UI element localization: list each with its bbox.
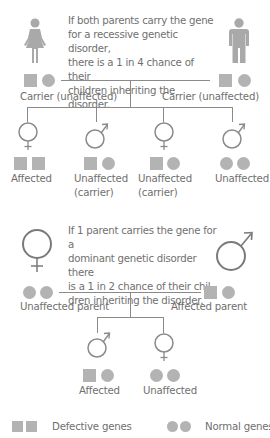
defective-gene-square [219, 74, 232, 87]
parent-female-label: Carrier (unaffected) [20, 91, 117, 102]
male-symbol-icon [84, 122, 110, 152]
dominant-description: If 1 parent carries the gene for a domin… [68, 224, 218, 308]
female-symbol-icon [152, 333, 176, 365]
normal-gene-circle [167, 369, 180, 382]
female-symbol-icon [16, 122, 40, 154]
defective-gene-square [84, 157, 97, 170]
child-label: Unaffected [143, 385, 197, 396]
legend-defective-label: Defective genes [52, 421, 132, 432]
male-symbol-icon [216, 230, 256, 272]
parent-female-label: Unaffected parent [20, 301, 109, 312]
normal-gene-circle [23, 286, 36, 299]
parent-male-label: Affected parent [171, 301, 247, 312]
normal-gene-circle [40, 286, 53, 299]
child-drop-line [27, 107, 28, 122]
male-symbol-icon [86, 331, 112, 361]
descent-line [130, 80, 131, 107]
female-symbol-icon [152, 122, 176, 154]
child-drop-line [163, 107, 164, 122]
female-symbol-icon [20, 229, 54, 275]
legend-normal-label: Normal genes [205, 421, 270, 432]
child-label: Unaffected [215, 173, 269, 184]
normal-gene-circle [101, 369, 114, 382]
defective-gene-square [24, 74, 37, 87]
normal-gene-circle [150, 369, 163, 382]
parent-male-label: Carrier (unaffected) [162, 91, 259, 102]
normal-gene-circle [222, 286, 235, 299]
child-drop-line [96, 107, 97, 122]
defective-gene-square [14, 157, 27, 170]
defective-gene-square [83, 369, 96, 382]
defective-gene-square [204, 286, 217, 299]
child-label: Affected [11, 173, 52, 184]
defective-gene-square [26, 421, 37, 432]
normal-gene-circle [220, 157, 233, 170]
siblings-line [97, 317, 164, 318]
siblings-line [27, 107, 233, 108]
normal-gene-circle [238, 74, 251, 87]
child-sublabel: (carrier) [138, 187, 177, 198]
defective-gene-square [32, 157, 45, 170]
child-drop-line [232, 107, 233, 122]
normal-gene-circle [167, 157, 180, 170]
normal-gene-circle [237, 157, 250, 170]
defective-gene-square [12, 421, 23, 432]
descent-line [130, 292, 131, 317]
normal-gene-circle [42, 74, 55, 87]
normal-gene-circle [102, 157, 115, 170]
parents-connector-line [61, 80, 210, 81]
normal-gene-circle [180, 421, 191, 432]
male-figure-icon [226, 18, 252, 64]
child-label: Unaffected [138, 173, 192, 184]
child-sublabel: (carrier) [74, 187, 113, 198]
female-figure-icon [22, 18, 48, 64]
male-symbol-icon [221, 122, 247, 152]
child-label: Affected [79, 385, 120, 396]
normal-gene-circle [167, 421, 178, 432]
child-label: Unaffected [74, 173, 128, 184]
defective-gene-square [150, 157, 163, 170]
child-drop-line [163, 317, 164, 333]
